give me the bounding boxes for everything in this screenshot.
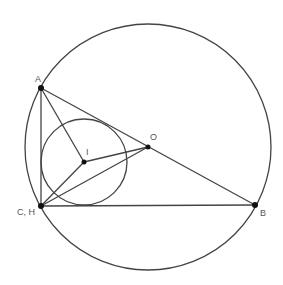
- label-i: I: [86, 147, 89, 157]
- label-ch: C, H: [17, 207, 35, 217]
- geometry-diagram: A C, H B I O: [0, 0, 283, 285]
- segment-i-o: [84, 147, 148, 162]
- point-o: [146, 145, 151, 150]
- label-b: B: [260, 208, 266, 218]
- point-a: [38, 85, 44, 91]
- segment-ch-o: [41, 147, 148, 206]
- point-ch: [38, 203, 44, 209]
- diagram-canvas: A C, H B I O: [0, 0, 283, 285]
- label-o: O: [150, 132, 157, 142]
- point-i: [82, 160, 87, 165]
- segment-ch-b: [41, 205, 255, 206]
- point-b: [252, 202, 258, 208]
- label-a: A: [35, 74, 41, 84]
